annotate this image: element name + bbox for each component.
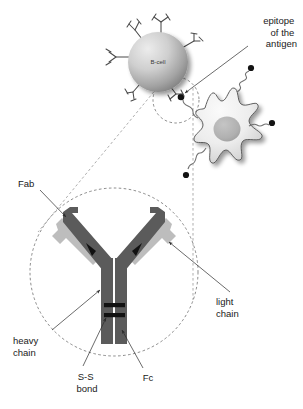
ss-bond-upper: [104, 303, 125, 307]
ss-bond-label: S-S bond: [76, 371, 97, 394]
heavy-chain-label-line-1: heavy: [13, 335, 39, 346]
heavy-chain-stem-right: [115, 258, 127, 344]
magnification-target-circle: [30, 188, 198, 356]
epitope-label-line-1: epitope: [263, 15, 294, 26]
fc-label: Fc: [143, 372, 154, 383]
antigen-receptor-bound: [178, 94, 198, 118]
ss-bond-lower: [104, 313, 125, 317]
light-chain-label: light chain: [216, 296, 239, 319]
heavy-chain-label: heavy chain: [13, 335, 41, 358]
surface-antibody: [106, 49, 130, 65]
ss-bond-label-line-2: bond: [76, 383, 97, 394]
magnification-tangent-left: [38, 88, 157, 232]
light-chain-leader-line: [169, 242, 230, 292]
surface-antibody: [127, 19, 142, 39]
surface-antibody: [125, 84, 140, 101]
epitope-label-line-3: antigen: [266, 38, 297, 49]
epitope-callout: epitope of the antigen: [185, 15, 297, 93]
heavy-chain-leader-line: [52, 290, 100, 330]
surface-antibody: [182, 33, 203, 48]
epitope-ball: [269, 120, 275, 126]
apc-nucleus: [214, 117, 241, 142]
epitope-label-line-2: of the: [271, 27, 295, 38]
antigen-receptor: [249, 120, 275, 126]
enlarged-antibody: [52, 207, 176, 344]
antigen-receptor: [237, 65, 254, 92]
heavy-chain-stem-left: [101, 258, 113, 344]
b-cell-label: B-cell: [150, 59, 165, 65]
fc-leader-line: [122, 330, 143, 368]
b-cell: B-cell: [106, 14, 203, 101]
epitope-leader-line: [185, 46, 248, 93]
fab-label: Fab: [18, 178, 34, 189]
heavy-chain-label-line-2: chain: [13, 347, 36, 358]
light-chain-label-line-2: chain: [216, 308, 239, 319]
epitope-ball: [183, 172, 189, 178]
epitope-ball: [248, 65, 254, 71]
ss-bond-label-line-1: S-S: [78, 371, 94, 382]
epitope-label: epitope of the antigen: [263, 15, 297, 49]
antigen-receptor: [183, 148, 206, 178]
surface-antibody: [152, 14, 170, 33]
antibody-diagram-figure: B-cell epitope of the antigen Fab: [0, 0, 303, 409]
antigen-presenting-cell: [194, 88, 262, 163]
light-chain-label-line-1: light: [216, 296, 234, 307]
diagram-canvas: B-cell epitope of the antigen Fab: [0, 0, 303, 409]
fab-leader-line: [40, 190, 66, 217]
